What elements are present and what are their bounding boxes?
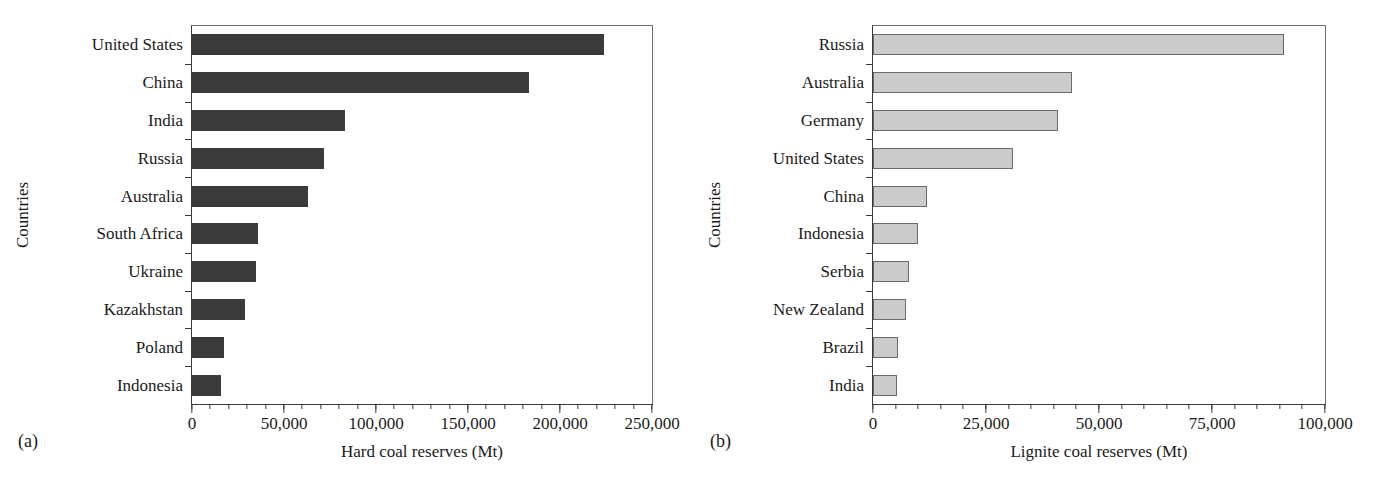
x-tick-major (283, 404, 284, 413)
panel-a-hard-coal: Countries United StatesChinaIndiaRussiaA… (0, 0, 692, 488)
category-tick (866, 253, 873, 254)
x-tick-minor (265, 404, 266, 409)
x-tick-minor (320, 404, 321, 409)
category-tick (185, 253, 192, 254)
x-tick-label: 100,000 (1297, 415, 1352, 432)
x-tick-label: 150,000 (440, 415, 495, 432)
panel-a-x-axis-title: Hard coal reserves (Mt) (192, 442, 652, 462)
x-tick-minor (578, 404, 579, 409)
bar (873, 375, 897, 396)
x-tick-minor (504, 404, 505, 409)
x-tick-minor (1189, 404, 1190, 409)
category-label: India (829, 377, 864, 394)
bar (192, 148, 324, 169)
x-tick-minor (1008, 404, 1009, 409)
category-label: Germany (801, 112, 864, 129)
category-label: Ukraine (128, 263, 183, 280)
x-tick-label: 200,000 (532, 415, 587, 432)
panel-b-caption: (b) (710, 432, 731, 450)
bar (873, 186, 927, 207)
category-label: Australia (802, 74, 864, 91)
x-tick-major (559, 404, 560, 413)
bar (873, 223, 918, 244)
bar-row: China (192, 64, 652, 102)
x-tick-major (985, 404, 986, 413)
bar-row: Kazakhstan (192, 291, 652, 329)
bar-row: Indonesia (873, 215, 1325, 253)
bar-row: China (873, 177, 1325, 215)
panel-a-y-axis-title: Countries (13, 145, 33, 285)
x-tick-minor (431, 404, 432, 409)
category-label: Indonesia (798, 225, 864, 242)
bar-row: United States (873, 139, 1325, 177)
panel-a-x-axis-ticks (192, 404, 652, 413)
bar (873, 110, 1058, 131)
bar (192, 337, 224, 358)
category-tick (866, 215, 873, 216)
x-tick-major (375, 404, 376, 413)
bar (873, 299, 906, 320)
bar-row: India (873, 366, 1325, 404)
bar (873, 34, 1284, 55)
x-tick-minor (247, 404, 248, 409)
x-tick-label: 25,000 (963, 415, 1010, 432)
x-tick-minor (523, 404, 524, 409)
x-tick-major (1098, 404, 1099, 413)
category-tick (185, 102, 192, 103)
x-tick-major (467, 404, 468, 413)
bar-row: Australia (192, 177, 652, 215)
x-tick-minor (895, 404, 896, 409)
x-tick-minor (1279, 404, 1280, 409)
x-tick-minor (412, 404, 413, 409)
category-tick (866, 64, 873, 65)
x-tick-major (872, 404, 873, 413)
x-tick-minor (1053, 404, 1054, 409)
bar-row: United States (192, 26, 652, 64)
bar (873, 148, 1013, 169)
category-label: Kazakhstan (104, 301, 183, 318)
panel-a-x-axis-labels: 050,000100,000150,000200,000250,000 (192, 415, 652, 437)
x-tick-minor (228, 404, 229, 409)
category-tick (185, 177, 192, 178)
x-tick-minor (1144, 404, 1145, 409)
x-tick-minor (486, 404, 487, 409)
bar-row: South Africa (192, 215, 652, 253)
panel-b-plot-area: RussiaAustraliaGermanyUnited StatesChina… (872, 25, 1326, 405)
category-tick (866, 328, 873, 329)
bar (192, 261, 256, 282)
bar-row: Australia (873, 64, 1325, 102)
category-label: China (142, 74, 183, 91)
bar-row: Russia (873, 26, 1325, 64)
x-tick-label: 0 (188, 415, 197, 432)
x-tick-minor (1076, 404, 1077, 409)
bar-row: India (192, 102, 652, 140)
category-label: China (823, 188, 864, 205)
bar-row: Poland (192, 328, 652, 366)
bar (192, 223, 258, 244)
x-tick-label: 50,000 (261, 415, 308, 432)
category-tick (866, 177, 873, 178)
bar-row: Germany (873, 102, 1325, 140)
bar (192, 186, 308, 207)
category-label: United States (92, 36, 183, 53)
bar-row: Brazil (873, 328, 1325, 366)
bar-row: Russia (192, 139, 652, 177)
category-label: United States (773, 150, 864, 167)
category-label: Russia (138, 150, 183, 167)
category-label: Poland (136, 339, 183, 356)
panel-b-bar-rows: RussiaAustraliaGermanyUnited StatesChina… (873, 26, 1325, 404)
x-tick-label: 75,000 (1189, 415, 1236, 432)
bar-row: Ukraine (192, 253, 652, 291)
coal-reserves-figure: Countries United StatesChinaIndiaRussiaA… (0, 0, 1384, 488)
category-label: South Africa (97, 225, 183, 242)
x-tick-minor (615, 404, 616, 409)
bar (192, 72, 529, 93)
x-tick-minor (339, 404, 340, 409)
category-tick (185, 215, 192, 216)
x-tick-minor (1302, 404, 1303, 409)
bar-row: New Zealand (873, 291, 1325, 329)
category-tick (185, 64, 192, 65)
x-tick-minor (940, 404, 941, 409)
category-label: Russia (819, 36, 864, 53)
x-tick-minor (210, 404, 211, 409)
